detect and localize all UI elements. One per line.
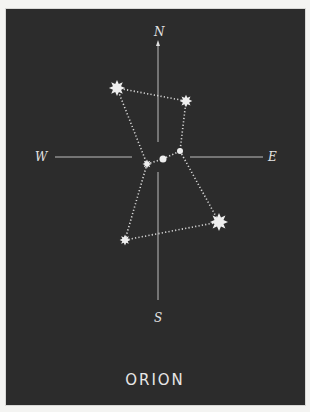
constellation-diagram: N S W E <box>0 0 310 412</box>
south-label: S <box>154 311 162 325</box>
compass-axes <box>55 40 263 300</box>
belt-star-middle-icon <box>160 156 167 163</box>
constellation-lines <box>117 88 219 240</box>
belt-star-right-icon <box>177 148 183 154</box>
belt-star-left-icon <box>143 160 152 169</box>
star-upper-right-icon <box>180 95 193 108</box>
east-label: E <box>267 150 277 164</box>
west-label: W <box>35 150 49 164</box>
north-label: N <box>153 25 165 39</box>
constellation-title: ORION <box>0 371 310 389</box>
star-lower-left-icon <box>120 235 131 246</box>
star-lower-right-icon <box>210 213 228 231</box>
north-arrow-icon <box>156 40 160 46</box>
star-upper-left-icon <box>109 80 125 96</box>
